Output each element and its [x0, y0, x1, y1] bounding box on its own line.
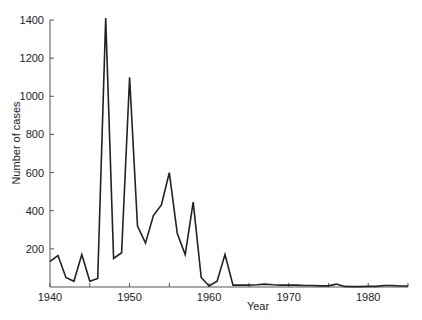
y-axis-label: Number of cases	[10, 101, 22, 185]
x-tick-label: 1950	[117, 291, 141, 303]
y-tick-label: 800	[26, 128, 44, 140]
y-tick-label: 1200	[20, 52, 44, 64]
x-axis-label: Year	[247, 300, 270, 312]
x-tick-label: 1980	[356, 291, 380, 303]
line-chart: 200400600800100012001400 194019501960197…	[0, 0, 422, 320]
x-tick-label: 1940	[38, 291, 62, 303]
y-tick-label: 1400	[20, 14, 44, 26]
x-tick-label: 1970	[276, 291, 300, 303]
y-tick-label: 1000	[20, 90, 44, 102]
y-tick-label: 600	[26, 167, 44, 179]
y-tick-label: 200	[26, 243, 44, 255]
x-tick-label: 1960	[197, 291, 221, 303]
series-line	[50, 18, 408, 287]
y-tick-label: 400	[26, 205, 44, 217]
series-layer	[50, 18, 408, 287]
y-axis: 200400600800100012001400	[20, 14, 54, 287]
